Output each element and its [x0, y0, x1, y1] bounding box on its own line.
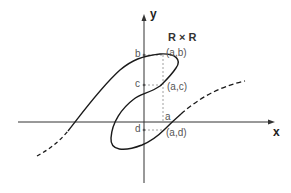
curve-right-tail	[181, 81, 245, 114]
y-tick-c-label: c	[135, 79, 140, 89]
curve-left-tail	[37, 131, 68, 156]
point-ad-label: (a,d)	[166, 128, 187, 138]
y-tick-d-label: d	[135, 124, 141, 134]
x-axis-label: x	[273, 126, 280, 138]
point-ac-label: (a,c)	[167, 82, 187, 92]
relation-curve	[68, 54, 181, 149]
tick-c	[143, 84, 146, 87]
tick-b	[143, 54, 146, 57]
y-tick-b-label: b	[135, 49, 141, 59]
y-axis-label: y	[150, 8, 157, 20]
x-tick-a-label: a	[165, 112, 171, 122]
y-axis-arrow-icon	[142, 14, 147, 21]
point-ab-label: (a,b)	[166, 48, 187, 58]
relation-diagram	[0, 0, 291, 193]
tick-d	[143, 129, 146, 132]
diagram-title: R × R	[168, 32, 196, 43]
x-axis-arrow-icon	[268, 120, 275, 125]
